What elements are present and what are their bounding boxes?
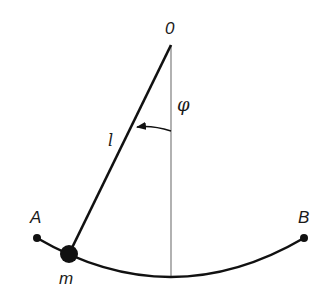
mass-label: m bbox=[59, 270, 73, 287]
pendulum-bob bbox=[60, 245, 78, 263]
pendulum-diagram bbox=[0, 0, 323, 296]
length-label: l bbox=[108, 133, 113, 149]
point-b-dot bbox=[300, 234, 308, 242]
pivot-label: 0 bbox=[165, 20, 174, 37]
point-a-dot bbox=[33, 234, 41, 242]
point-a-label: A bbox=[30, 209, 41, 226]
angle-arc-arrow bbox=[137, 127, 171, 132]
angle-label: φ bbox=[177, 96, 190, 114]
point-b-label: B bbox=[298, 209, 309, 226]
pendulum-string bbox=[69, 45, 171, 254]
